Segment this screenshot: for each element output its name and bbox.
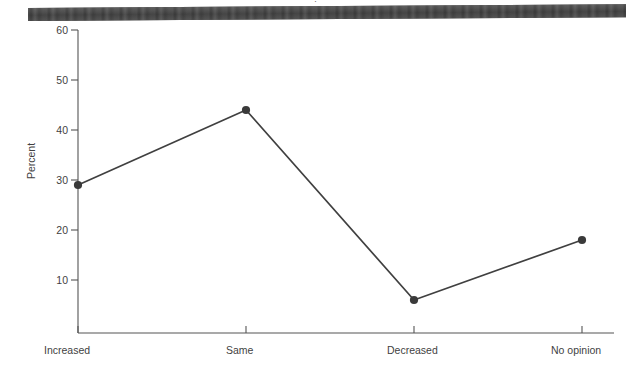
y-tick-label-20: 20 xyxy=(40,225,68,235)
data-point-decreased xyxy=(410,296,418,304)
chart-plot-svg xyxy=(0,0,632,375)
data-point-increased xyxy=(74,181,82,189)
y-tick-label-30: 30 xyxy=(40,175,68,185)
y-tick-label-40: 40 xyxy=(40,125,68,135)
y-tick-label-60: 60 xyxy=(40,25,68,35)
line-chart: 60 50 40 30 20 10 Percent Increased Same… xyxy=(0,0,632,375)
data-point-no-opinion xyxy=(578,236,586,244)
y-tick-label-50: 50 xyxy=(40,75,68,85)
x-tick-label-decreased: Decreased xyxy=(387,345,438,356)
data-point-same xyxy=(242,106,250,114)
x-tick-label-same: Same xyxy=(226,345,253,356)
y-axis-title: Percent xyxy=(25,143,37,179)
x-axis-ticks xyxy=(78,326,582,333)
series-line xyxy=(78,110,582,300)
y-tick-label-10: 10 xyxy=(40,275,68,285)
x-tick-label-increased: Increased xyxy=(44,345,90,356)
x-tick-label-no-opinion: No opinion xyxy=(551,345,601,356)
y-axis-ticks xyxy=(71,30,78,280)
